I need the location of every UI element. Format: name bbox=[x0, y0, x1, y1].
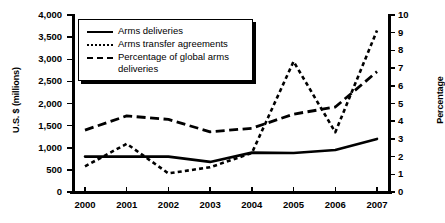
tick-mark-y-right bbox=[390, 14, 395, 16]
y-axis-left-title: U.S. $ (millions) bbox=[11, 40, 21, 160]
tick-label-x: 2006 bbox=[315, 199, 355, 210]
tick-mark-y-right bbox=[390, 67, 395, 69]
legend-label: Percentage of global arms deliveries bbox=[118, 51, 246, 74]
tick-label-x: 2002 bbox=[148, 199, 188, 210]
y-axis-right-title: Percentage bbox=[435, 40, 445, 160]
tick-label-y-left: 3,500 bbox=[22, 31, 62, 42]
tick-mark-y-right bbox=[390, 32, 395, 34]
tick-mark-y-right bbox=[390, 85, 395, 87]
tick-label-y-right: 10 bbox=[398, 9, 418, 20]
tick-label-y-left: 1,500 bbox=[22, 120, 62, 131]
legend-item-percentage-global-arms-deliveries: Percentage of global arms deliveries bbox=[87, 51, 246, 74]
tick-label-y-left: 2,000 bbox=[22, 98, 62, 109]
tick-label-y-right: 4 bbox=[398, 115, 418, 126]
tick-label-y-right: 7 bbox=[398, 62, 418, 73]
tick-label-y-right: 1 bbox=[398, 168, 418, 179]
tick-label-y-right: 8 bbox=[398, 44, 418, 55]
tick-label-y-right: 6 bbox=[398, 80, 418, 91]
tick-mark-y-right bbox=[390, 174, 395, 176]
tick-label-x: 2004 bbox=[232, 199, 272, 210]
legend-item-arms-deliveries: Arms deliveries bbox=[87, 25, 246, 37]
tick-label-y-right: 2 bbox=[398, 151, 418, 162]
tick-label-y-right: 9 bbox=[398, 27, 418, 38]
tick-mark-y-right bbox=[390, 103, 395, 105]
tick-mark-y-right bbox=[390, 156, 395, 158]
tick-label-x: 2000 bbox=[65, 199, 105, 210]
legend-swatch-solid-icon bbox=[87, 26, 113, 37]
tick-mark-y-right bbox=[390, 191, 395, 193]
legend-item-arms-transfer-agreements: Arms transfer agreements bbox=[87, 38, 246, 50]
tick-label-x: 2007 bbox=[357, 199, 397, 210]
tick-mark-y-right bbox=[390, 50, 395, 52]
tick-label-y-left: 2,500 bbox=[22, 75, 62, 86]
tick-label-y-left: 4,000 bbox=[22, 9, 62, 20]
chart-legend: Arms deliveries Arms transfer agreements… bbox=[78, 19, 253, 81]
tick-label-x: 2001 bbox=[107, 199, 147, 210]
legend-swatch-dashed-icon bbox=[87, 52, 113, 63]
legend-label: Arms deliveries bbox=[118, 25, 183, 37]
tick-mark-y-right bbox=[390, 120, 395, 122]
tick-label-y-left: 500 bbox=[22, 164, 62, 175]
tick-label-y-left: 3,000 bbox=[22, 53, 62, 64]
tick-label-y-left: 0 bbox=[22, 186, 62, 197]
arms-transfers-line-chart: U.S. $ (millions) Percentage 05001,0001,… bbox=[0, 0, 445, 223]
series-line-solid bbox=[85, 139, 377, 162]
legend-swatch-dotted-icon bbox=[87, 39, 113, 50]
tick-label-x: 2005 bbox=[274, 199, 314, 210]
tick-label-y-right: 3 bbox=[398, 133, 418, 144]
tick-label-y-left: 1,000 bbox=[22, 142, 62, 153]
tick-label-y-right: 5 bbox=[398, 98, 418, 109]
tick-mark-y-right bbox=[390, 138, 395, 140]
legend-label: Arms transfer agreements bbox=[118, 38, 228, 50]
tick-label-y-right: 0 bbox=[398, 186, 418, 197]
tick-label-x: 2003 bbox=[190, 199, 230, 210]
